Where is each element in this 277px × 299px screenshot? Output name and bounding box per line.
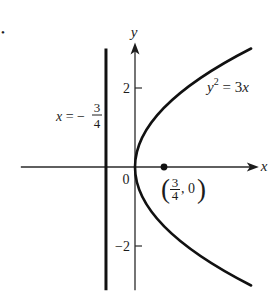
- focus-label-open-paren: (: [161, 174, 170, 204]
- y-axis-label: y: [129, 24, 138, 40]
- focus-label-separator: , 0: [181, 181, 195, 196]
- parabola-label-var2: x: [241, 79, 249, 95]
- bullet-marker: •: [1, 26, 5, 38]
- directrix-fraction-denominator: 4: [94, 116, 101, 131]
- y-tick-label-2: 2: [123, 81, 130, 96]
- directrix-fraction-numerator: 3: [94, 100, 101, 115]
- focus-label-close-paren: ): [197, 174, 206, 204]
- y-tick-label-minus-2: −2: [115, 239, 130, 254]
- parabola-label: y2 = 3x: [205, 76, 249, 95]
- parabola-label-var: y: [205, 79, 214, 95]
- focus-point: [161, 164, 168, 171]
- focus-label: ( 3 4 , 0 ): [161, 174, 206, 204]
- parabola-label-eq: = 3: [219, 79, 242, 95]
- focus-fraction-denominator: 4: [172, 188, 179, 203]
- x-axis-label: x: [260, 158, 268, 174]
- directrix-label: x = − 3 4: [55, 100, 102, 131]
- directrix-label-lhs: x = −: [55, 109, 85, 124]
- directrix-eq: = −: [62, 109, 85, 124]
- origin-label: 0: [123, 172, 130, 187]
- parabola-figure: • x y 0 2 −2 x = − 3 4 y2 = 3x ( 3 4 , 0…: [0, 0, 277, 299]
